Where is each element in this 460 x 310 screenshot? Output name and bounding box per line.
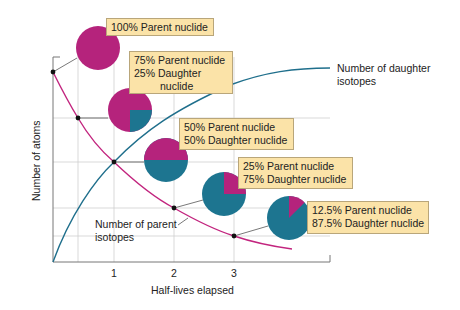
- y-axis-label: Number of atoms: [30, 121, 42, 201]
- label-box-50-parent: 50% Parent nuclide 50% Daughter nuclide: [179, 118, 294, 150]
- x-axis-label: Half-lives elapsed: [151, 284, 234, 297]
- x-tick-2: 2: [164, 267, 184, 279]
- label-box-100-parent: 100% Parent nuclide: [106, 18, 214, 36]
- half-life-chart: [0, 0, 460, 310]
- parent-curve-label: Number of parent isotopes: [95, 218, 177, 244]
- x-tick-3: 3: [224, 267, 244, 279]
- label-box-75-parent: 75% Parent nuclide 25% Daughter nuclide: [129, 51, 233, 94]
- daughter-curve-label: Number of daughter isotopes: [337, 62, 430, 88]
- pie-12-5-parent: [267, 196, 311, 240]
- x-tick-1: 1: [104, 267, 124, 279]
- pie-75-parent: [108, 88, 152, 132]
- label-box-25-parent: 25% Parent nuclide 75% Daughter nuclide: [238, 157, 353, 189]
- label-box-12-5-parent: 12.5% Parent nuclide 87.5% Daughter nucl…: [307, 201, 429, 234]
